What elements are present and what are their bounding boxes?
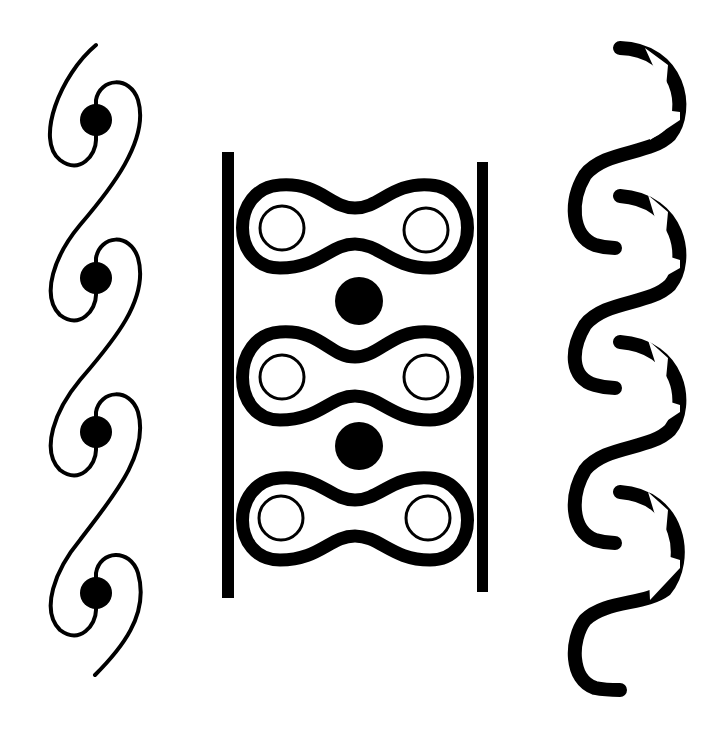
chain-link bbox=[243, 332, 468, 420]
right-rail bbox=[477, 162, 488, 592]
ornament-drawing bbox=[0, 0, 725, 730]
link-hole bbox=[260, 355, 304, 399]
link-hole bbox=[406, 496, 450, 540]
middle-chain-border bbox=[222, 152, 488, 598]
link-hole bbox=[404, 355, 448, 399]
scroll-dot bbox=[80, 262, 112, 294]
scroll-dot bbox=[80, 577, 112, 609]
chain-dot bbox=[335, 422, 383, 470]
link-hole bbox=[404, 208, 448, 252]
scroll-dot bbox=[80, 416, 112, 448]
chain-link bbox=[243, 185, 468, 268]
link-hole bbox=[259, 496, 303, 540]
left-rail bbox=[222, 152, 234, 598]
link-hole bbox=[260, 206, 304, 250]
chain-link bbox=[243, 478, 468, 560]
scroll-dot bbox=[80, 104, 112, 136]
chain-dot bbox=[335, 277, 383, 325]
